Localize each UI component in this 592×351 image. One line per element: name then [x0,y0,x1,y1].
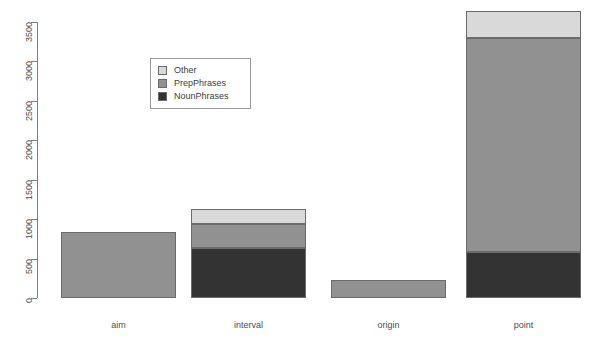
x-axis-category-label: point [466,320,581,330]
legend: OtherPrepPhrasesNounPhrases [150,58,251,109]
legend-entry-label: PrepPhrases [174,79,226,88]
legend-swatch-icon [158,79,167,88]
x-axis-category-label: aim [61,320,176,330]
legend-swatch-icon [158,66,167,75]
bar-segment-other[interactable] [191,209,306,224]
legend-entry: Other [158,64,244,77]
bar-segment-prepphrases[interactable] [61,232,176,298]
legend-entry-label: NounPhrases [174,92,229,101]
legend-entries: OtherPrepPhrasesNounPhrases [158,64,244,103]
stacked-bar-chart: 0500100015002000250030003500 aiminterval… [0,0,592,351]
x-axis-category-label: origin [331,320,446,330]
legend-entry: PrepPhrases [158,77,244,90]
legend-swatch-icon [158,92,167,101]
bar-segment-prepphrases[interactable] [466,38,581,252]
plot-area: aimintervaloriginpoint [0,0,592,351]
bar-segment-prepphrases[interactable] [331,280,446,298]
x-axis-category-label: interval [191,320,306,330]
bar-segment-other[interactable] [466,11,581,38]
legend-entry: NounPhrases [158,90,244,103]
bar-segment-nounphrases[interactable] [191,248,306,298]
legend-entry-label: Other [174,66,197,75]
bar-segment-nounphrases[interactable] [466,252,581,298]
bar-segment-prepphrases[interactable] [191,224,306,248]
